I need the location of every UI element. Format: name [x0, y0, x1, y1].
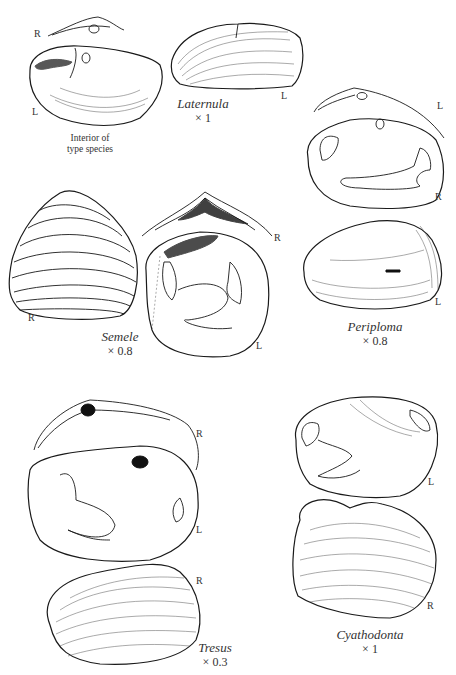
- periploma-exterior-drawing: [304, 221, 442, 309]
- semele-interior-drawing: [146, 232, 269, 357]
- tresus-hinge-valve-label: R: [196, 429, 203, 439]
- laternula-caption: Interior of type species: [50, 133, 130, 156]
- laternula-hinge-drawing: [48, 17, 124, 36]
- periploma-interior-valve-label: R: [435, 192, 442, 202]
- tresus-genus-label: Tresus × 0.3: [175, 641, 255, 670]
- laternula-exterior-drawing: [171, 24, 303, 89]
- laternula-left-valve-label: L: [32, 107, 38, 117]
- laternula-exterior-valve-label: L: [281, 91, 287, 101]
- periploma-exterior-valve-label: L: [435, 297, 441, 307]
- cyathodonta-scale: × 1: [320, 643, 420, 657]
- cyathodonta-interior-drawing: [295, 397, 437, 498]
- semele-name: Semele: [102, 329, 139, 344]
- cyathodonta-exterior-valve-label: R: [427, 601, 434, 611]
- cyathodonta-interior-valve-label: L: [428, 477, 434, 487]
- cyathodonta-genus-label: Cyathodonta × 1: [320, 628, 420, 657]
- tresus-name: Tresus: [198, 640, 231, 655]
- periploma-genus-label: Periploma × 0.8: [335, 320, 415, 349]
- cyathodonta-name: Cyathodonta: [336, 627, 403, 642]
- semele-interior-valve-label: L: [256, 341, 262, 351]
- laternula-caption-line1: Interior of: [71, 133, 110, 143]
- tresus-interior-valve-label: L: [196, 525, 202, 535]
- semele-scale: × 0.8: [80, 345, 160, 359]
- tresus-interior-drawing: [28, 446, 198, 561]
- tresus-scale: × 0.3: [175, 656, 255, 670]
- tresus-exterior-valve-label: R: [196, 576, 203, 586]
- periploma-name: Periploma: [348, 319, 403, 334]
- periploma-scale: × 0.8: [335, 335, 415, 349]
- semele-exterior-drawing: [9, 191, 137, 320]
- laternula-name: Laternula: [177, 96, 228, 111]
- laternula-interior-drawing: [30, 46, 162, 126]
- shell-plate: R L Interior of type species L Laternula…: [0, 0, 456, 675]
- semele-hinge-valve-label: R: [274, 233, 281, 243]
- laternula-caption-line2: type species: [67, 144, 113, 154]
- periploma-interior-drawing: [307, 119, 443, 209]
- semele-genus-label: Semele × 0.8: [80, 330, 160, 359]
- laternula-scale: × 1: [163, 112, 243, 126]
- periploma-hinge-valve-label: L: [437, 101, 443, 111]
- laternula-genus-label: Laternula × 1: [163, 97, 243, 126]
- laternula-right-valve-label: R: [34, 29, 41, 39]
- semele-exterior-valve-label: R: [28, 313, 35, 323]
- cyathodonta-exterior-drawing: [293, 500, 436, 618]
- semele-hinge-drawing: [142, 192, 272, 236]
